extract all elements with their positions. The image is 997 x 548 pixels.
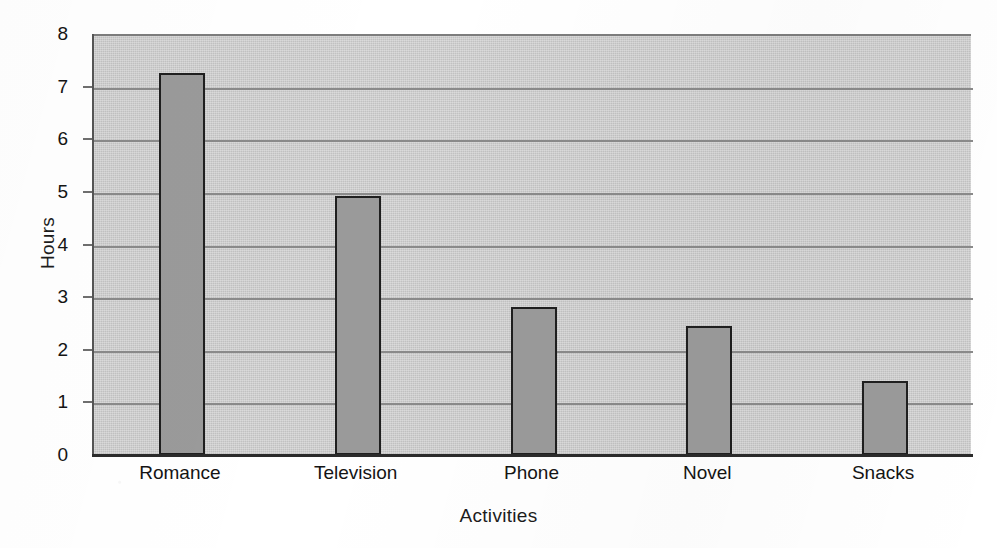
bar-chart-figure: Hours 876543210 RomanceTelevisionPhoneNo… [0,0,997,548]
gridline [94,88,973,90]
y-axis-tick-label: 7 [34,77,68,96]
x-axis-tick-label: Novel [683,462,732,484]
y-axis-tick-label: 1 [34,392,68,411]
y-axis-line [92,34,94,455]
bar-snacks [862,381,908,455]
y-axis-tick-label: 2 [34,340,68,359]
x-axis-line [92,454,973,457]
x-axis-tick-label: Romance [139,462,220,484]
y-axis-tick-label: 3 [34,287,68,306]
x-axis-title: Activities [0,505,997,527]
gridline [94,140,973,142]
bar-novel [686,326,732,455]
gridline [94,298,973,300]
plot-area [92,34,971,455]
bar-romance [159,73,205,455]
y-axis-tick-label: 0 [34,445,68,464]
gridline [94,246,973,248]
y-axis-tick-label: 4 [34,235,68,254]
gridline [94,193,973,195]
y-axis-tick-label: 5 [34,182,68,201]
y-axis-tick-label: 6 [34,129,68,148]
x-axis-tick-label: Television [314,462,397,484]
x-axis-tick-label: Snacks [852,462,914,484]
bar-phone [511,307,557,455]
x-axis-tick-label: Phone [504,462,559,484]
bar-television [335,196,381,455]
y-axis-tick-label: 8 [34,24,68,43]
